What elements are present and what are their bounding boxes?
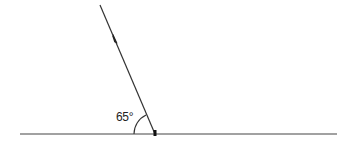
angle-diagram xyxy=(0,0,350,148)
intersection-marker xyxy=(154,130,157,136)
arrow-marker-icon xyxy=(112,34,117,44)
angle-label: 65° xyxy=(116,110,133,124)
angle-arc xyxy=(134,115,146,134)
